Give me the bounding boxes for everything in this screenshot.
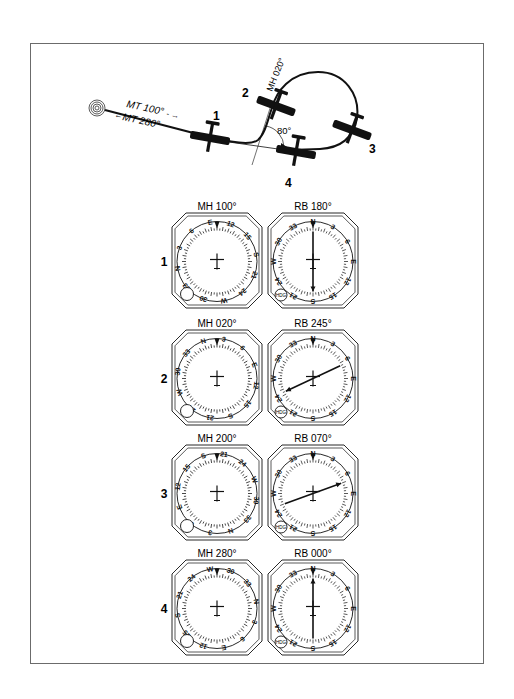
hdg-knob-label: HDG <box>276 410 286 415</box>
svg-text:30: 30 <box>252 496 260 505</box>
reference-line-2 <box>252 102 272 165</box>
adf-indicator: RB 000°N36E1215S2124W3033HDG <box>268 548 358 655</box>
instrument-row-4: 4MH 280°N36E1215S2124W3033RB 000°N36E121… <box>161 548 358 659</box>
ndb-station-icon <box>89 100 105 116</box>
rb-label: RB 070° <box>294 433 331 444</box>
svg-text:S: S <box>310 645 315 652</box>
diagram-canvas: MT 100° - → ← MT 280° MH 020° 80° 1 2 3 … <box>0 0 514 699</box>
svg-text:S: S <box>310 298 315 305</box>
adf-indicator: RB 180°N36E1215S2124W3033HDG <box>268 201 358 308</box>
position-label-4: 4 <box>285 176 292 190</box>
row-label: 3 <box>161 487 168 501</box>
heading-indicator: MH 020°N36E1215S2124W3033 <box>161 318 273 434</box>
row-label: 1 <box>161 255 168 269</box>
adjust-knob[interactable] <box>181 520 194 533</box>
hdg-knob-label: HDG <box>276 640 286 645</box>
airplane-position-2 <box>252 83 300 126</box>
rb-label: RB 180° <box>294 201 331 212</box>
instrument-row-1: 1MH 100°N36E1215S2124W3033RB 180°N36E121… <box>161 201 358 312</box>
svg-text:E: E <box>350 606 357 611</box>
heading-indicator: MH 200°N36E1215S2124W3033 <box>161 433 273 549</box>
svg-text:21: 21 <box>219 450 228 458</box>
svg-text:W: W <box>270 258 277 265</box>
svg-text:21: 21 <box>206 414 215 422</box>
adjust-knob[interactable] <box>181 405 194 418</box>
instrument-row-2: 2MH 020°N36E1215S2124W3033RB 245°N36E121… <box>161 318 358 434</box>
rb-label: RB 245° <box>294 318 331 329</box>
adf-indicator: RB 245°N36E1215S2124W3033HDG <box>268 318 358 425</box>
adjust-knob[interactable] <box>181 635 194 648</box>
instrument-row-3: 3MH 200°N36E1215S2124W3033RB 070°N36E121… <box>161 433 358 549</box>
adf-indicator: RB 070°N36E1215S2124W3033HDG <box>268 433 358 540</box>
svg-text:12: 12 <box>173 482 181 491</box>
svg-text:S: S <box>310 415 315 422</box>
mh-label: MH 020° <box>197 318 236 329</box>
mh-label: MH 280° <box>197 548 236 559</box>
svg-text:E: E <box>350 259 357 264</box>
airplane-position-4 <box>274 132 319 169</box>
adjust-knob[interactable] <box>181 288 194 301</box>
row-label: 2 <box>161 372 168 386</box>
hdg-knob-label: HDG <box>276 525 286 530</box>
mh-label: MH 200° <box>197 433 236 444</box>
position-label-1: 1 <box>213 109 220 123</box>
heading-indicator: MH 100°N36E1215S2124W3033 <box>167 201 268 312</box>
svg-text:12: 12 <box>252 381 260 390</box>
svg-text:W: W <box>270 375 277 382</box>
track-out-arrow: - → <box>166 109 180 120</box>
row-label: 4 <box>161 602 168 616</box>
svg-text:E: E <box>350 491 357 496</box>
rb-label: RB 000° <box>294 548 331 559</box>
angle-label: 80° <box>277 125 292 136</box>
hdg-knob-label: HDG <box>276 293 286 298</box>
svg-text:30: 30 <box>173 367 181 376</box>
svg-text:W: W <box>270 490 277 497</box>
svg-text:S: S <box>310 530 315 537</box>
airplane-position-1 <box>188 118 233 155</box>
mh-label: MH 100° <box>197 201 236 212</box>
svg-text:E: E <box>350 376 357 381</box>
position-label-3: 3 <box>369 142 376 156</box>
svg-text:W: W <box>270 605 277 612</box>
position-label-2: 2 <box>242 86 249 100</box>
heading-indicator: MH 280°N36E1215S2124W3033 <box>167 548 268 659</box>
